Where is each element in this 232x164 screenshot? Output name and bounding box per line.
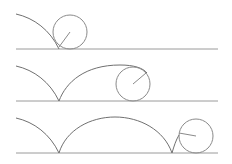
- radius-line: [179, 133, 196, 136]
- cycloid-curve: [16, 65, 147, 101]
- radius-line: [133, 73, 146, 84]
- cycloid-curve: [16, 117, 179, 153]
- cycloid-diagram: [0, 0, 232, 164]
- panel-stage-1: [16, 14, 218, 49]
- panel-stage-2: [16, 65, 218, 101]
- radius-line: [59, 32, 70, 47]
- panel-stage-3: [16, 117, 218, 153]
